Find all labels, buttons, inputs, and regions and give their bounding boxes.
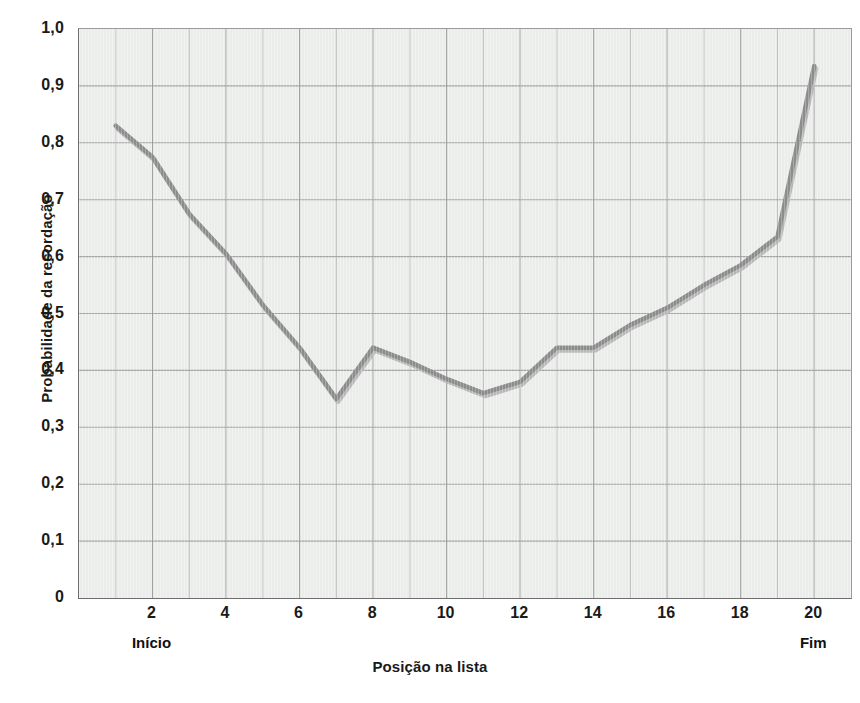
y-axis-tick-label: 0,9 [0,76,64,94]
x-axis-tick-label: 8 [342,604,402,622]
x-axis-tick-label: 18 [710,604,770,622]
x-axis-tick-label: 14 [563,604,623,622]
y-axis-tick-label: 0,6 [0,247,64,265]
x-axis-tick-labels: 2468101214161820 [0,604,860,632]
data-line-highlight [117,69,815,402]
data-line [116,66,814,399]
y-axis-tick-label: 0,4 [0,360,64,378]
chart-canvas [79,29,851,598]
x-axis-start-annotation: Início [97,634,207,651]
data-line-group [116,66,816,401]
y-axis-tick-label: 0,5 [0,304,64,322]
x-axis-tick-label: 20 [783,604,843,622]
y-axis-tick-label: 0,2 [0,474,64,492]
y-axis-tick-label: 0,7 [0,190,64,208]
x-axis-tick-label: 12 [489,604,549,622]
y-axis-tick-label: 0,3 [0,417,64,435]
x-axis-tick-label: 16 [636,604,696,622]
x-axis-tick-label: 4 [195,604,255,622]
x-axis-tick-label: 2 [122,604,182,622]
y-axis-tick-labels: 1,00,90,80,70,60,50,40,30,20,10 [0,0,70,703]
x-axis-tick-label: 6 [269,604,329,622]
x-axis-title: Posição na lista [0,658,860,675]
serial-position-chart: Probabilidade da recordação 1,00,90,80,7… [0,0,860,703]
y-axis-tick-label: 1,0 [0,19,64,37]
y-axis-tick-label: 0,8 [0,133,64,151]
x-axis-end-annotation: Fim [758,634,860,651]
x-axis-tick-label: 10 [416,604,476,622]
major-gridlines [79,86,851,541]
plot-area [78,28,852,599]
y-axis-tick-label: 0,1 [0,531,64,549]
